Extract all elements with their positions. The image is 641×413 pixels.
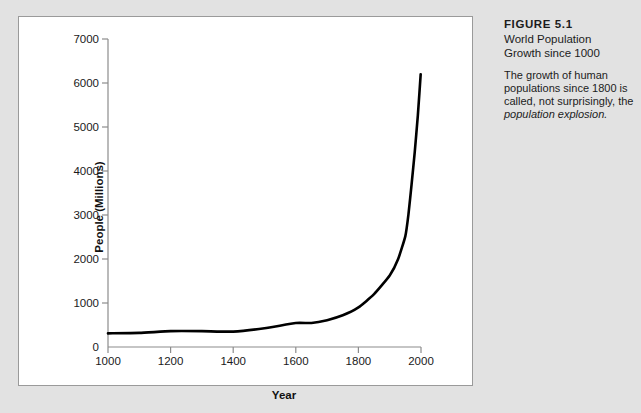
x-tick-label: 1200 xyxy=(158,355,184,367)
caption-emphasis: population explosion. xyxy=(504,108,607,120)
x-tick-label: 1800 xyxy=(346,355,372,367)
y-tick-label: 5000 xyxy=(73,121,99,133)
caption-text: The growth of human populations since 18… xyxy=(504,69,633,107)
figure-caption-body: The growth of human populations since 18… xyxy=(504,69,636,121)
x-tick-label: 1000 xyxy=(95,355,121,367)
x-tick-label: 1600 xyxy=(283,355,309,367)
chart-axes xyxy=(102,39,421,353)
y-axis-label: People (Millions) xyxy=(93,161,105,252)
figure-number: FIGURE 5.1 xyxy=(504,18,636,30)
x-tick-label: 2000 xyxy=(408,355,434,367)
figure-caption-block: FIGURE 5.1 World Population Growth since… xyxy=(504,18,636,121)
y-tick-label: 1000 xyxy=(73,297,99,309)
chart-plot-area: 0100020003000400050006000700010001200140… xyxy=(19,17,474,387)
source-note xyxy=(8,404,438,412)
figure-title-line1: World Population xyxy=(504,33,591,45)
figure-panel: 0100020003000400050006000700010001200140… xyxy=(18,16,473,386)
figure-title-line2: Growth since 1000 xyxy=(504,47,600,59)
x-axis-label: Year xyxy=(272,389,296,401)
chart-series-line xyxy=(108,74,421,333)
y-tick-label: 2000 xyxy=(73,253,99,265)
y-tick-label: 7000 xyxy=(73,33,99,45)
population-growth-line-chart xyxy=(19,17,474,387)
figure-title: World Population Growth since 1000 xyxy=(504,33,636,60)
y-tick-label: 6000 xyxy=(73,77,99,89)
x-tick-label: 1400 xyxy=(220,355,246,367)
y-tick-label: 0 xyxy=(93,341,99,353)
